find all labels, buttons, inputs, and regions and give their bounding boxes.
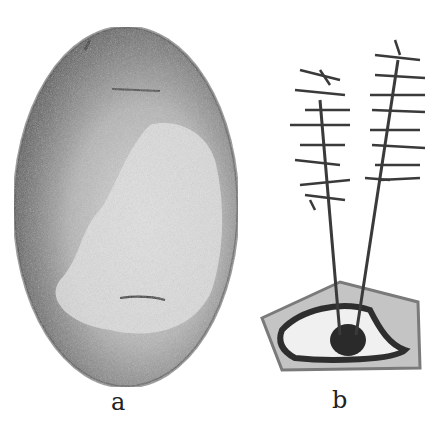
panel-a-stone	[14, 27, 238, 387]
panel-a-label: a	[111, 388, 125, 416]
panel-b-plant	[262, 40, 425, 370]
panel-b-label: b	[332, 386, 347, 414]
illustration-canvas	[0, 0, 436, 430]
illustration-figure: a b	[0, 0, 436, 430]
